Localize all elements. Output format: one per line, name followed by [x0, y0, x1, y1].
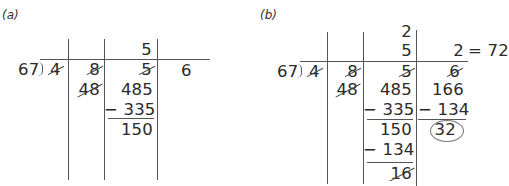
quotient-result: = 72 [468, 43, 509, 59]
dividend-digit-1: 4 [50, 62, 61, 78]
quotient-top-col3: 2 [390, 24, 412, 40]
work-remainder: 150 [108, 122, 153, 138]
quotient-digit-col3: 5 [390, 43, 412, 59]
dividend-digit-4: 6 [181, 63, 192, 79]
division-bar [300, 61, 468, 62]
partial-48: 48 [330, 82, 358, 98]
dividend-digit-3: 5 [390, 64, 412, 80]
col3-remainder: 150 [367, 122, 412, 138]
col3-subtraction-line-2 [367, 162, 413, 163]
col4-remainder: 32 [420, 122, 456, 138]
division-bracket [297, 64, 302, 78]
division-bracket [38, 62, 43, 76]
column-divider-1 [68, 39, 69, 180]
subtraction-line [108, 118, 154, 119]
panel-b-label: (b) [260, 8, 277, 22]
col3-subtrahend: − 335 [363, 102, 412, 118]
divisor: 67 [18, 62, 39, 78]
panel-b: (b) 2 5 2 = 72 67 4 8 5 6 48 485 − 335 1… [250, 0, 503, 186]
dividend-digit-3: 5 [130, 62, 152, 78]
quotient-digit-col3: 5 [130, 42, 152, 58]
dividend-digit-2: 8 [338, 64, 358, 80]
panel-a-label: (a) [2, 8, 19, 22]
work-subtrahend: − 335 [104, 102, 153, 118]
partial-48: 48 [72, 82, 100, 98]
column-divider-3 [157, 39, 158, 180]
dividend-digit-1: 4 [309, 64, 320, 80]
column-divider-1 [327, 32, 328, 184]
dividend-digit-4: 6 [440, 64, 460, 80]
panel-a: (a) 5 67 4 8 5 6 48 485 − 335 150 [0, 0, 250, 186]
col3-remainder2: 16 [367, 166, 412, 182]
quotient-digit-col4: 2 [440, 43, 464, 59]
col3-minuend: 485 [367, 82, 412, 98]
col4-subtrahend: − 134 [418, 102, 464, 118]
divisor: 67 [277, 64, 298, 80]
col4-minuend: 166 [420, 82, 464, 98]
column-divider-3 [416, 30, 417, 186]
division-bar [40, 59, 210, 60]
work-minuend: 485 [108, 82, 153, 98]
dividend-digit-2: 8 [80, 62, 100, 78]
col3-subtrahend2: − 134 [363, 142, 412, 158]
